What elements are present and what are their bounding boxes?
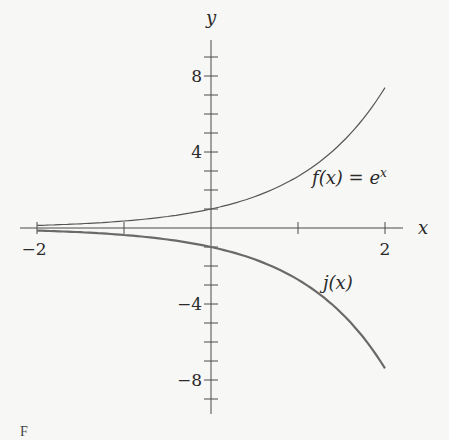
figure-caption: F [20, 424, 28, 440]
y-axis-label: y [205, 7, 217, 28]
x-tick-label: 2 [380, 239, 391, 259]
x-tick-label: −2 [21, 239, 46, 259]
series-f-label-exponent: x [380, 166, 387, 180]
y-tick-label: −8 [177, 370, 202, 390]
labels: −2284−4−8xyf(x) = exj(x) [21, 7, 428, 390]
y-tick-label: 8 [191, 66, 202, 86]
x-axis-label: x [418, 217, 428, 238]
y-tick-label: −4 [177, 294, 202, 314]
series-f-label: f(x) = ex [310, 166, 387, 188]
y-tick-label: 4 [191, 142, 202, 162]
series-j-label: j(x) [319, 272, 353, 293]
axes [20, 40, 403, 414]
